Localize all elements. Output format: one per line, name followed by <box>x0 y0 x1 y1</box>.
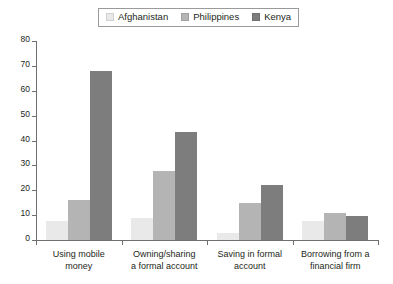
bar[interactable] <box>217 233 239 240</box>
y-axis-tick-label: 50 <box>21 110 30 119</box>
legend-swatch-icon <box>181 13 189 21</box>
y-axis-tick-label: 0 <box>25 234 30 243</box>
legend-entry[interactable]: Kenya <box>252 12 291 22</box>
bar[interactable] <box>68 200 90 240</box>
legend-label: Afghanistan <box>118 12 168 22</box>
bar-group <box>293 41 379 240</box>
x-axis-category-label: Borrowing from a financial firm <box>293 249 379 272</box>
legend-swatch-icon <box>106 13 114 21</box>
x-axis-category-label: Owning/sharing a formal account <box>122 249 208 272</box>
bar[interactable] <box>239 203 261 240</box>
chart-legend: AfghanistanPhilippinesKenya <box>98 8 299 27</box>
y-axis-tick-label: 10 <box>21 209 30 218</box>
y-axis-tick: 0 <box>0 240 36 241</box>
bar[interactable] <box>346 216 368 240</box>
x-axis-tick-mark <box>122 241 123 245</box>
x-axis-tick-mark <box>207 241 208 245</box>
y-axis-tick-label: 70 <box>21 60 30 69</box>
y-axis-tick: 50 <box>0 116 36 117</box>
bar[interactable] <box>46 221 68 240</box>
x-axis-category-label: Using mobile money <box>36 249 122 272</box>
legend-label: Philippines <box>193 12 239 22</box>
y-axis-tick-label: 80 <box>21 35 30 44</box>
bar[interactable] <box>131 218 153 240</box>
bar[interactable] <box>261 185 283 240</box>
x-axis-tick-mark <box>378 241 379 245</box>
legend-entry[interactable]: Philippines <box>181 12 239 22</box>
x-axis-tick-mark <box>36 241 37 245</box>
y-axis-tick-label: 30 <box>21 159 30 168</box>
y-axis-tick: 10 <box>0 215 36 216</box>
y-axis-tick-label: 40 <box>21 135 30 144</box>
plot-area <box>36 41 378 240</box>
bar-chart: AfghanistanPhilippinesKenya 010203040506… <box>0 0 393 284</box>
x-axis-category-label: Saving in formal account <box>207 249 293 272</box>
legend-label: Kenya <box>264 12 291 22</box>
y-axis-tick: 30 <box>0 165 36 166</box>
y-axis-tick-label: 20 <box>21 184 30 193</box>
y-axis-tick: 80 <box>0 41 36 42</box>
bar[interactable] <box>324 213 346 240</box>
bar-group <box>207 41 293 240</box>
bar-group <box>122 41 208 240</box>
y-axis-tick: 70 <box>0 66 36 67</box>
y-axis-tick: 60 <box>0 91 36 92</box>
bar-group <box>36 41 122 240</box>
bar[interactable] <box>302 221 324 240</box>
y-axis-tick-label: 60 <box>21 85 30 94</box>
legend-entry[interactable]: Afghanistan <box>106 12 168 22</box>
y-axis-tick: 20 <box>0 190 36 191</box>
bar[interactable] <box>90 71 112 240</box>
y-axis-tick: 40 <box>0 141 36 142</box>
bar[interactable] <box>175 132 197 240</box>
x-axis-tick-mark <box>293 241 294 245</box>
bar[interactable] <box>153 171 175 240</box>
legend-swatch-icon <box>252 13 260 21</box>
